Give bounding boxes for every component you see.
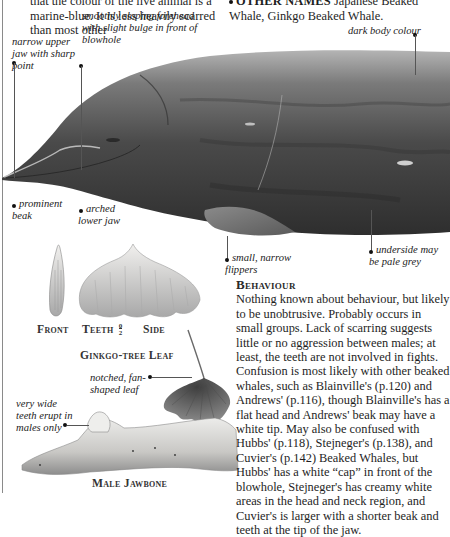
label-leaf-text: notched, fan-shaped leaf: [90, 372, 146, 395]
leader-line: [415, 35, 416, 75]
caption-teeth: Teeth 0 2: [82, 323, 124, 337]
tooth-side-illustration: [79, 244, 200, 317]
caption-teeth-text: Teeth: [82, 323, 113, 336]
label-jawbone: very wide teeth erupt in males only: [16, 398, 76, 433]
leader-line: [81, 66, 82, 170]
caption-ginkgo-leaf: Ginkgo-tree Leaf: [80, 349, 174, 362]
caption-front: Front: [37, 323, 69, 336]
caption-male-jawbone: Male Jawbone: [92, 477, 167, 490]
behaviour-text: Nothing known about behaviour, but likel…: [236, 292, 450, 537]
label-beak: prominent beak: [12, 198, 72, 222]
teeth-formula: 0 2: [119, 323, 123, 337]
label-forehead: smoothly sloping forehead with slight bu…: [82, 10, 212, 45]
tooth-front-illustration: [49, 245, 64, 316]
label-upper-jaw-text: narrow upper jaw with sharp point: [12, 36, 75, 71]
formula-bottom: 2: [119, 328, 123, 337]
label-body-colour: dark body colour: [348, 25, 443, 37]
behaviour-heading: Behaviour: [236, 278, 450, 292]
label-forehead-text: smoothly sloping forehead with slight bu…: [82, 10, 197, 45]
leader-line: [14, 63, 15, 178]
label-lower-jaw: arched lower jaw: [78, 203, 126, 227]
caption-side: Side: [143, 323, 165, 336]
leader-line: [67, 425, 89, 426]
leader-line: [152, 377, 192, 378]
label-jawbone-text: very wide teeth erupt in males only: [16, 398, 73, 433]
label-underside-text: underside may be pale grey: [369, 244, 438, 267]
behaviour-section: Behaviour Nothing known about behaviour,…: [236, 278, 450, 537]
label-flippers: small, narrow flippers: [225, 252, 305, 276]
label-lower-jaw-text: arched lower jaw: [78, 203, 120, 226]
label-underside: underside may be pale grey: [369, 244, 449, 268]
label-leaf: notched, fan-shaped leaf: [90, 372, 152, 396]
label-beak-text: prominent beak: [12, 198, 62, 221]
label-body-colour-text: dark body colour: [348, 25, 421, 36]
label-upper-jaw: narrow upper jaw with sharp point: [12, 36, 82, 71]
label-flippers-text: small, narrow flippers: [225, 252, 291, 275]
